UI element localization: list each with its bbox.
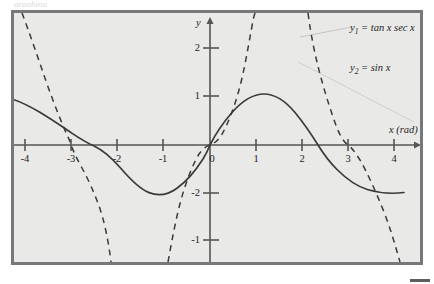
y-tick-label-2: 2 (186, 42, 200, 53)
x-tick-label-2: 2 (293, 153, 311, 164)
x-tick-label-1: 1 (247, 153, 265, 164)
x-tick-label--2: -2 (108, 153, 126, 164)
x-tick-label-0: 0 (203, 153, 221, 164)
plot-frame (11, 10, 423, 265)
x-tick-label-3: 3 (339, 153, 357, 164)
legend-entry-y2: y2 = sin x (350, 62, 390, 76)
legend-y2-subscript: 2 (355, 67, 359, 76)
figure-container: graphing (0, 0, 434, 284)
x-axis-title: x (rad) (389, 124, 418, 135)
x-tick-label-4: 4 (385, 153, 403, 164)
y-axis-title: y (196, 17, 201, 28)
legend-y1-expression: = tan x sec x (361, 22, 415, 33)
legend-y2-expression: = sin x (361, 62, 390, 73)
legend-y1-subscript: 1 (355, 27, 359, 36)
x-tick-label--1: -1 (154, 153, 172, 164)
legend-entry-y1: y1 = tan x sec x (350, 22, 415, 36)
page-corner-mark (410, 279, 430, 282)
y-tick-label--1: -1 (182, 234, 200, 245)
y-tick-label-1: 1 (186, 90, 200, 101)
x-tick-label--4: -4 (16, 153, 34, 164)
x-tick-label--3: -3 (62, 153, 80, 164)
y-tick-label--2: -2 (182, 187, 200, 198)
cropped-caption-sliver: graphing (14, 0, 164, 7)
